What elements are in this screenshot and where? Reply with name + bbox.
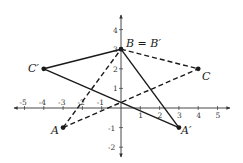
x-tick-label: -3 [58, 98, 66, 107]
point-A [61, 125, 66, 130]
y-tick-label: 1 [113, 84, 118, 93]
segment-C-prime-B-prime [44, 49, 121, 69]
x-tick-label: 5 [216, 111, 221, 120]
y-tick-label: -2 [108, 143, 116, 152]
x-tick-label: 3 [177, 111, 182, 120]
point-B [119, 47, 124, 52]
axes [14, 15, 230, 157]
label-C-prime: C′ [28, 62, 39, 75]
point-C [196, 66, 201, 71]
label-B: B = B′ [125, 37, 161, 50]
point-labels: B = B′ C C′ A A′ [28, 37, 211, 137]
x-tick-label: -1 [97, 98, 104, 107]
x-tick-label: 4 [196, 111, 201, 120]
y-tick-label: -1 [108, 124, 115, 133]
point-C-prime [41, 66, 46, 71]
label-A: A [50, 124, 59, 137]
label-C: C [202, 70, 211, 83]
x-tick-label: -5 [20, 98, 28, 107]
y-tick-label: 4 [113, 26, 118, 35]
x-tick-label: -4 [39, 98, 47, 107]
segment-B-prime-A-prime [121, 49, 179, 127]
coordinate-plane: -5-4-3-2-112345 4321-1-2 B = B′ C C′ A A… [0, 0, 243, 163]
label-A-prime: A′ [180, 124, 192, 137]
y-tick-label: 2 [113, 65, 118, 74]
